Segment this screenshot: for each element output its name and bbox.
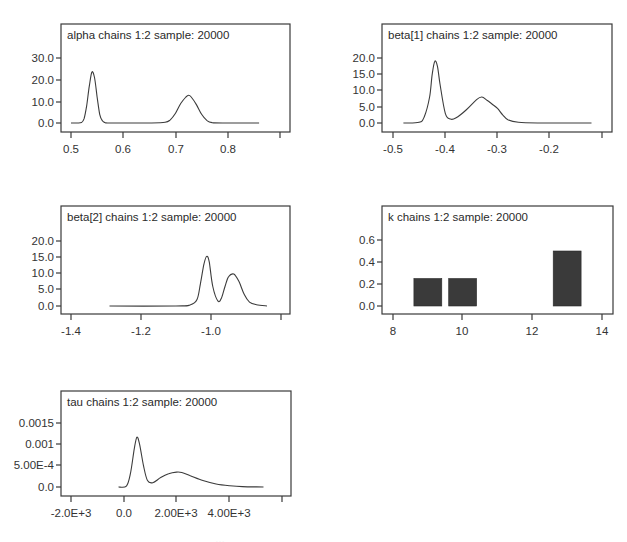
density-plots-figure: alpha chains 1:2 sample: 200000.50.60.70… — [0, 0, 627, 542]
y-tick-label: 0.0015 — [19, 417, 54, 429]
y-tick-label: 0.0 — [359, 117, 375, 129]
x-tick-label: -0.3 — [487, 143, 507, 155]
x-tick-label: 0.7 — [168, 143, 184, 155]
y-tick-label: 0.0 — [38, 117, 54, 129]
x-tick-label: -0.2 — [539, 143, 559, 155]
y-tick-label: 0.0 — [38, 300, 54, 312]
x-tick-label: 0.0 — [116, 507, 132, 519]
panel-title: alpha chains 1:2 sample: 20000 — [67, 29, 229, 41]
y-tick-label: 10.0 — [353, 84, 375, 96]
panel-k: k chains 1:2 sample: 2000081012140.60.40… — [359, 206, 613, 337]
y-tick-label: 15.0 — [32, 251, 54, 263]
panel-alpha: alpha chains 1:2 sample: 200000.50.60.70… — [32, 24, 290, 155]
panel-title: beta[2] chains 1:2 sample: 20000 — [67, 211, 236, 223]
y-tick-label: 30.0 — [32, 52, 54, 64]
y-tick-label: 20.0 — [32, 235, 54, 247]
panel-title: k chains 1:2 sample: 20000 — [388, 211, 528, 223]
x-tick-label: 10 — [456, 325, 469, 337]
x-tick-label: 14 — [596, 325, 609, 337]
x-tick-label: 12 — [526, 325, 539, 337]
y-tick-label: 0.001 — [25, 438, 54, 450]
panel-tau: tau chains 1:2 sample: 20000-2.0E+30.02.… — [14, 391, 291, 519]
x-tick-label: -2.0E+3 — [51, 507, 92, 519]
y-tick-label: 0.6 — [359, 234, 375, 246]
y-tick-label: 10.0 — [32, 267, 54, 279]
x-tick-label: 2.00E+3 — [154, 507, 197, 519]
x-tick-label: 0.8 — [220, 143, 236, 155]
y-tick-label: 5.00E-4 — [14, 459, 55, 471]
y-tick-label: 0.0 — [359, 300, 375, 312]
y-tick-label: 0.2 — [359, 278, 375, 290]
figure-caption-fragment: … — [215, 534, 415, 542]
y-tick-label: 20.0 — [353, 52, 375, 64]
x-tick-label: 4.00E+3 — [207, 507, 250, 519]
x-tick-label: 0.6 — [115, 143, 131, 155]
panel-beta2: beta[2] chains 1:2 sample: 20000-1.4-1.2… — [32, 206, 290, 337]
panel-beta1: beta[1] chains 1:2 sample: 20000-0.5-0.4… — [353, 24, 612, 155]
x-tick-label: -1.2 — [131, 325, 151, 337]
x-tick-label: -0.4 — [435, 143, 455, 155]
panel-title: beta[1] chains 1:2 sample: 20000 — [388, 29, 557, 41]
histogram-bar — [449, 279, 477, 307]
x-tick-label: -0.5 — [383, 143, 403, 155]
y-tick-label: 0.0 — [38, 481, 54, 493]
y-tick-label: 15.0 — [353, 68, 375, 80]
x-tick-label: 8 — [390, 325, 396, 337]
histogram-bar — [553, 251, 581, 306]
x-tick-label: -1.4 — [61, 325, 81, 337]
panel-title: tau chains 1:2 sample: 20000 — [67, 396, 217, 408]
y-tick-label: 5.0 — [359, 101, 375, 113]
y-tick-label: 20.0 — [32, 74, 54, 86]
x-tick-label: -1.0 — [201, 325, 221, 337]
y-tick-label: 0.4 — [359, 256, 376, 268]
y-tick-label: 10.0 — [32, 96, 54, 108]
histogram-bar — [414, 279, 442, 307]
x-tick-label: 0.5 — [63, 143, 79, 155]
y-tick-label: 5.0 — [38, 283, 54, 295]
